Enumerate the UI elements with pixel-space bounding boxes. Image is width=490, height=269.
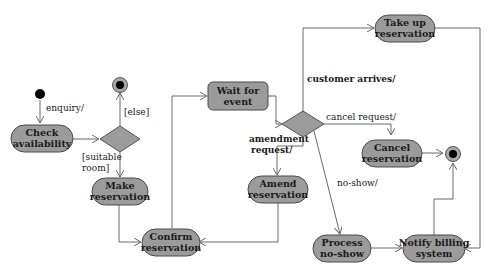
activity-label: reservation [90, 191, 150, 202]
activity-wait-for-event: Wait for event [208, 82, 268, 110]
edge-confirm-to-wait [172, 96, 207, 228]
edge-wait-to-decision [268, 96, 282, 124]
edge-cancel-request [324, 124, 391, 135]
label-enquiry: enquiry/ [46, 103, 85, 113]
final-node-1 [113, 78, 128, 93]
activity-label: reservation [362, 153, 422, 164]
activity-check-availability: Check availability [11, 125, 73, 152]
final-node-2 [446, 147, 461, 162]
initial-node [35, 89, 45, 99]
activity-label: Cancel [374, 142, 410, 153]
activity-label: Make [105, 180, 134, 191]
label-customer-arrives: customer arrives/ [307, 74, 396, 84]
activity-label: Confirm [150, 231, 193, 242]
activity-label: no-show [320, 248, 365, 259]
activity-label: event [224, 96, 254, 107]
label-suitable-room-1: [suitable [82, 152, 122, 162]
activity-label: reservation [248, 189, 308, 200]
label-amendment-request-1: amendment [249, 134, 310, 144]
activity-label: Process [321, 237, 362, 248]
activity-confirm-reservation: Confirm reservation [141, 229, 201, 256]
activity-label: Amend [258, 178, 296, 189]
label-amendment-request-2: request/ [251, 145, 293, 155]
label-suitable-room-2: room] [82, 163, 109, 173]
activity-make-reservation: Make reservation [90, 178, 150, 205]
activity-process-no-show: Process no-show [313, 235, 371, 262]
activity-notify-billing-system: Notify billing system [399, 235, 470, 262]
label-cancel-request: cancel request/ [326, 112, 397, 122]
activity-cancel-reservation: Cancel reservation [362, 140, 422, 167]
activity-take-up-reservation: Take up reservation [375, 15, 435, 42]
activity-label: Notify billing [399, 237, 470, 248]
edge-notify-to-end [434, 163, 453, 235]
activity-label: reservation [141, 242, 201, 253]
label-no-show: no-show/ [337, 178, 379, 188]
activity-label: Take up [384, 17, 426, 28]
edge-amend-to-confirm [199, 202, 278, 242]
activity-label: Wait for [216, 85, 261, 96]
activity-label: reservation [375, 28, 435, 39]
edge-takeup-to-notify [434, 28, 480, 248]
activity-label: system [416, 248, 453, 259]
activity-diagram: Check availability Make reservation Conf… [0, 0, 490, 269]
activity-amend-reservation: Amend reservation [248, 176, 308, 203]
label-else: [else] [124, 107, 149, 117]
decision-availability [100, 126, 140, 152]
edge-customer-arrives [303, 28, 374, 112]
activity-label: Check [26, 127, 59, 138]
edge-make-to-confirm [119, 204, 141, 242]
activity-label: availability [13, 138, 72, 149]
